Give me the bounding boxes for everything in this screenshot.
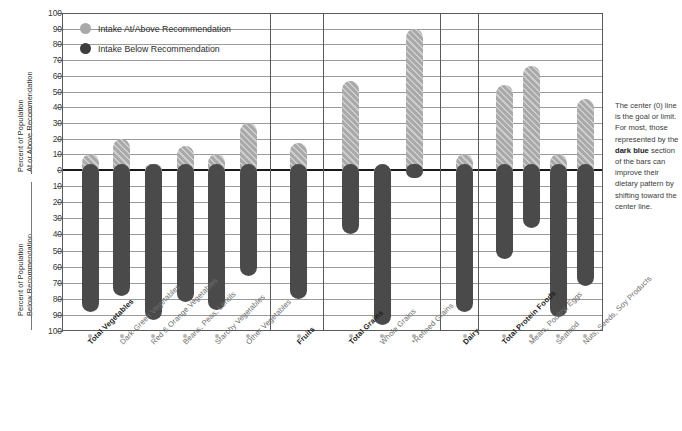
- side-note-emphasis: dark blue: [615, 146, 649, 155]
- x-axis-label: Seafood: [554, 319, 581, 346]
- x-axis-label: Dark-Green Vegetables: [118, 282, 182, 346]
- x-axis-label: *Refined Grains: [410, 301, 455, 346]
- x-axis-label: Nuts, Seeds, Soy Products: [581, 274, 653, 346]
- x-axis-label: Fruits: [295, 325, 317, 347]
- side-note-part2: section of the bars can improve their di…: [615, 146, 677, 211]
- chart-page: Percent of Population At or Above Recomm…: [0, 0, 682, 431]
- side-note: The center (0) line is the goal or limit…: [615, 100, 679, 212]
- x-axis-category-labels: Total VegetablesDark-Green VegetablesRed…: [0, 0, 682, 431]
- side-note-part1: The center (0) line is the goal or limit…: [615, 101, 678, 144]
- x-axis-label: Dairy: [461, 326, 481, 346]
